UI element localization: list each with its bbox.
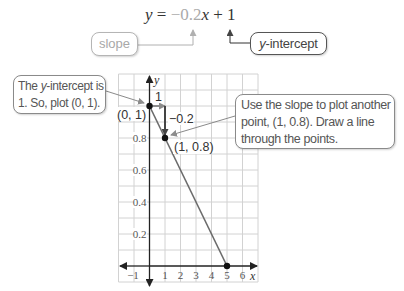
equation-intercept: + 1 xyxy=(209,5,236,24)
x-axis-label: x xyxy=(249,269,256,283)
slope-tip-callout: Use the slope to plot another point, (1,… xyxy=(235,94,395,149)
run-label: 1 xyxy=(155,90,162,104)
equation-y: y xyxy=(145,5,153,24)
figure: y x −1 1 2 3 4 5 6 0.8 0.6 0.4 0.2 xyxy=(0,0,404,291)
intercept-tip-callout: The y-intercept is 1. So, plot (0, 1). xyxy=(13,75,106,114)
y-intercept-callout-label: -intercept xyxy=(266,36,318,51)
y-tick-label: 0.2 xyxy=(133,228,147,240)
equation-slope: −0.2 xyxy=(171,5,202,24)
intercept-tip-text: -intercept is xyxy=(46,79,103,93)
point-5-0 xyxy=(224,263,230,269)
slope-callout: slope xyxy=(91,32,138,56)
x-tick-label: 6 xyxy=(240,269,246,281)
slope-callout-label: slope xyxy=(99,36,130,51)
y-axis-label: y xyxy=(153,73,160,87)
equation-equals: = xyxy=(153,5,171,24)
slope-connector xyxy=(138,30,193,45)
slope-tip-line-1: Use the slope to plot another xyxy=(241,97,394,114)
point-label-0-1: (0, 1) xyxy=(117,108,146,122)
x-tick-label: 2 xyxy=(178,269,184,281)
y-tick-label: 0.4 xyxy=(133,196,147,208)
y-intercept-connector xyxy=(230,30,250,43)
intercept-tip-text: The xyxy=(18,79,41,93)
x-tick-label: 1 xyxy=(162,269,168,281)
y-intercept-callout: y-intercept xyxy=(250,32,327,55)
point-0-1 xyxy=(146,103,152,109)
x-tick-label: 5 xyxy=(224,269,230,281)
y-tick-label: 0.8 xyxy=(133,132,147,144)
slope-tip-line-3: through the points. xyxy=(241,131,394,148)
intercept-tip-line-2: 1. So, plot (0, 1). xyxy=(18,95,105,112)
x-tick-label: 4 xyxy=(209,269,215,281)
point-label-1-0.8: (1, 0.8) xyxy=(174,140,214,154)
y-tick-label: 0.6 xyxy=(133,164,147,176)
point-1-0.8 xyxy=(162,135,168,141)
tip-intercept-pointer xyxy=(106,91,144,103)
equation: y = −0.2x + 1 xyxy=(145,5,236,25)
rise-label: −0.2 xyxy=(169,112,194,126)
equation-x: x xyxy=(201,5,209,24)
x-tick-label: −1 xyxy=(127,269,139,281)
intercept-tip-line-1: The y-intercept is xyxy=(18,78,105,95)
slope-tip-line-2: point, (1, 0.8). Draw a line xyxy=(241,114,394,131)
x-tick-label: 3 xyxy=(193,269,199,281)
